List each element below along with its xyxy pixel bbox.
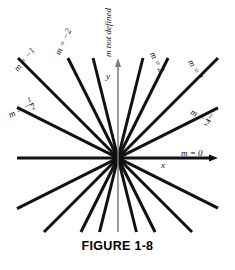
y-axis-name-text: y [106,71,110,81]
figure-1-8: m not defined y x m = 0 m = −1m = −2m = … [0,0,235,270]
y-axis-slope-text: m not defined [103,8,113,57]
slope-lines-diagram [0,0,235,270]
x-axis-slope-text: m = 0 [181,148,203,158]
arrowhead-slope-undefined [115,58,121,67]
y-axis-slope-label: m not defined [104,8,113,57]
x-axis-name: x [161,161,165,170]
y-axis-name: y [106,72,110,81]
x-axis-name-text: x [161,160,165,170]
x-axis-slope-label: m = 0 [181,149,203,158]
axes-group [17,58,218,232]
arrowhead-slope-0 [209,155,218,162]
figure-caption: FIGURE 1-8 [0,239,235,253]
